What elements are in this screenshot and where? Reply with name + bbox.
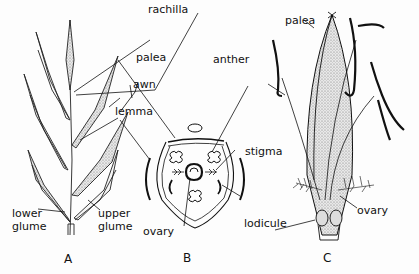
label-awn: awn [133, 79, 156, 91]
panel-label-a: A [64, 252, 72, 266]
label-lower-glume-1: lower [12, 208, 42, 220]
label-anther: anther [213, 54, 249, 66]
label-lodicule: lodicule [244, 218, 287, 230]
label-ovary-c: ovary [357, 205, 388, 217]
label-stigma: stigma [245, 146, 283, 158]
panel-label-b: B [183, 251, 191, 265]
label-lower-glume-2: glume [12, 221, 47, 233]
spikelet-drawing [24, 20, 138, 235]
label-rachilla: rachilla [148, 4, 188, 16]
botanical-figure: rachilla palea awn lemma lower glume upp… [0, 0, 419, 274]
floral-diagram [146, 124, 244, 228]
label-lemma: lemma [115, 106, 153, 118]
label-upper-glume-1: upper [98, 208, 130, 220]
label-upper-glume-2: glume [98, 221, 133, 233]
panel-label-c: C [323, 251, 331, 265]
label-ovary-b: ovary [143, 226, 174, 238]
label-palea-b: palea [136, 52, 166, 64]
label-palea-c: palea [285, 15, 315, 27]
figure-drawing [0, 0, 419, 274]
